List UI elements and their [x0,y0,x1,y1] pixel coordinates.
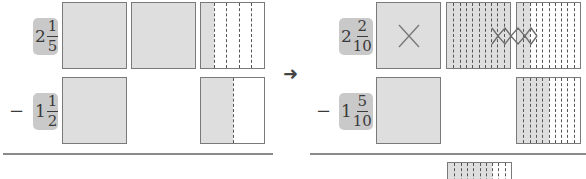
divider [561,3,562,68]
divider [530,3,531,68]
divider [226,3,227,68]
model-square-whole [376,77,441,144]
divider [549,3,550,68]
shaded-region [132,3,195,68]
numerator: 5 [357,94,369,112]
numerator: 2 [357,19,369,37]
denominator: 10 [353,112,372,129]
divider [453,3,454,68]
fraction: 5 10 [353,94,372,129]
whole-number: 1 [341,103,352,120]
minus-sign: − [9,102,24,120]
whole-number: 2 [35,28,46,45]
model-square-whole [62,2,127,69]
divider [479,3,480,68]
divider [460,3,461,68]
divider [505,163,506,179]
divider [523,78,524,143]
model-square-tenths-half [516,77,581,144]
shaded-region [63,78,126,143]
subtrahend-badge-left: 1 1 2 [33,93,58,130]
minus-sign: − [316,102,331,120]
result-square-tenths [447,162,512,179]
cross-out-icon [377,3,441,69]
divider [555,78,556,143]
minuend-badge-right: 2 2 10 [339,18,373,55]
divider [486,163,487,179]
fraction: 1 5 [47,19,59,54]
divider [233,78,234,143]
model-square-tenths-full [446,2,511,69]
subtrahend-badge-right: 1 5 10 [339,93,373,130]
shaded-region [201,78,233,143]
numerator: 1 [47,94,59,112]
divider [561,78,562,143]
divider [472,3,473,68]
shaded-region [377,78,440,143]
divider [492,163,493,179]
divider [497,3,498,68]
whole-number: 2 [341,28,352,45]
divider [555,3,556,68]
model-square-halves [200,77,265,144]
divider [567,3,568,68]
model-square-fifths [200,2,265,69]
divider [480,163,481,179]
divider [239,3,240,68]
model-square-whole [62,77,127,144]
denominator: 10 [353,37,372,54]
fraction: 1 2 [47,94,59,129]
divider [567,78,568,143]
numerator: 1 [47,19,59,37]
divider [467,163,468,179]
divider [549,78,550,143]
divider [485,3,486,68]
divider [504,3,505,68]
shaded-region [63,3,126,68]
sum-rule-left [3,153,273,155]
divider [536,78,537,143]
divider [251,3,252,68]
divider [530,78,531,143]
divider [542,3,543,68]
divider [574,78,575,143]
whole-number: 1 [35,103,46,120]
divider [461,163,462,179]
divider [473,163,474,179]
model-square-whole-crossed [376,2,441,69]
divider [523,3,524,68]
divider [491,3,492,68]
denominator: 2 [48,112,58,129]
divider [542,78,543,143]
divider [454,163,455,179]
fraction: 2 10 [353,19,372,54]
denominator: 5 [48,37,58,54]
model-square-tenths-partial [516,2,581,69]
divider [536,3,537,68]
divider [498,163,499,179]
shaded-region [201,3,214,68]
divider [466,3,467,68]
divider [574,3,575,68]
model-square-whole [131,2,196,69]
divider [214,3,215,68]
shaded-region [517,78,549,143]
arrow-right-icon: ➜ [283,65,298,83]
minuend-badge-left: 2 1 5 [33,18,58,55]
sum-rule-right [310,153,586,155]
